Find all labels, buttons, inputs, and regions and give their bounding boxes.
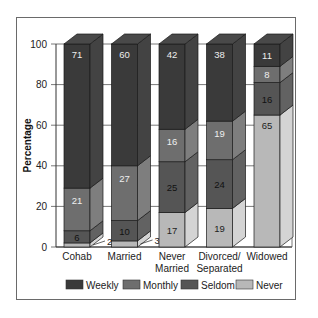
value-label: 6 (74, 232, 79, 243)
y-axis-label: Percentage (22, 118, 33, 172)
value-label: 38 (214, 49, 225, 60)
legend-swatch-seldom (181, 280, 198, 289)
value-label: 25 (167, 182, 178, 193)
y-tick-label: 60 (36, 120, 48, 131)
x-tick-label: Married (108, 251, 142, 262)
value-label: 42 (167, 49, 178, 60)
stacked-bar-chart: 020406080100Percentage262171Cohab3102760… (0, 0, 318, 318)
y-tick-label: 20 (36, 201, 48, 212)
value-label: 11 (262, 50, 272, 61)
value-label: 17 (167, 225, 178, 236)
value-label: 21 (72, 195, 83, 206)
y-tick-label: 80 (36, 79, 48, 90)
value-label: 71 (72, 49, 83, 60)
bar-segment-weekly (112, 44, 138, 166)
value-label: 27 (119, 173, 130, 184)
x-tick-label: Divorced/ (198, 251, 240, 262)
value-label: 16 (167, 136, 178, 147)
value-label: 10 (119, 226, 130, 237)
bar-segment-never (254, 115, 280, 247)
value-label: 8 (264, 69, 269, 80)
value-label: 19 (214, 128, 225, 139)
x-tick-label: Cohab (62, 251, 92, 262)
y-tick-label: 0 (41, 242, 47, 253)
value-label: 65 (262, 120, 273, 131)
bar-segment-monthly (207, 121, 233, 160)
legend-swatch-never (236, 280, 253, 289)
legend-swatch-weekly (66, 280, 83, 289)
bar-segment-never (112, 241, 138, 247)
bar-side (280, 105, 293, 247)
bar-side (233, 34, 246, 121)
bar-side (138, 34, 151, 166)
legend-label-seldom: Seldom (201, 280, 235, 291)
legend-label-monthly: Monthly (143, 280, 178, 291)
bar-side (185, 152, 198, 213)
x-tick-label: Separated (196, 263, 242, 274)
legend-label-never: Never (256, 280, 283, 291)
value-label: 19 (214, 223, 225, 234)
x-tick-label: Widowed (246, 251, 287, 262)
legend-label-weekly: Weekly (86, 280, 119, 291)
bar-side (185, 34, 198, 129)
x-tick-label: Married (155, 263, 189, 274)
value-label: 60 (119, 49, 130, 60)
bar-side (138, 156, 151, 221)
y-tick-label: 100 (30, 39, 47, 50)
bar-segment-never (64, 243, 90, 247)
value-label: 16 (262, 94, 273, 105)
y-tick-label: 40 (36, 160, 48, 171)
legend-swatch-monthly (123, 280, 140, 289)
bar-segment-weekly (64, 44, 90, 188)
bar-side (90, 34, 103, 188)
x-tick-label: Never (159, 251, 186, 262)
value-label: 24 (214, 179, 225, 190)
